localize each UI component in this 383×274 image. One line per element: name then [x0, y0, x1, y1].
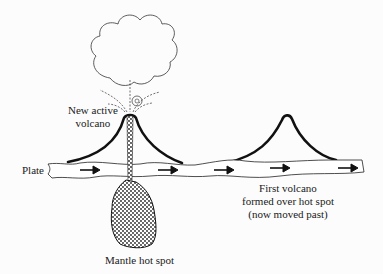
plate-label: Plate [22, 164, 44, 177]
first-volcano [226, 115, 336, 163]
mantle-hot-spot [111, 180, 156, 248]
label-line: New active [68, 104, 118, 117]
hot-spot-diagram [0, 0, 383, 274]
label-line: (now moved past) [242, 208, 334, 221]
new-volcano-label: New active volcano [68, 104, 118, 130]
eruption-cloud [91, 15, 177, 85]
label-line: formed over hot spot [242, 195, 334, 208]
label-line: volcano [68, 117, 118, 130]
hot-spot-label: Mantle hot spot [105, 254, 174, 267]
magma-conduit [127, 116, 133, 182]
label-line: First volcano [242, 182, 334, 195]
first-volcano-label: First volcano formed over hot spot (now … [242, 182, 334, 221]
crater-vent-icon [132, 96, 142, 106]
